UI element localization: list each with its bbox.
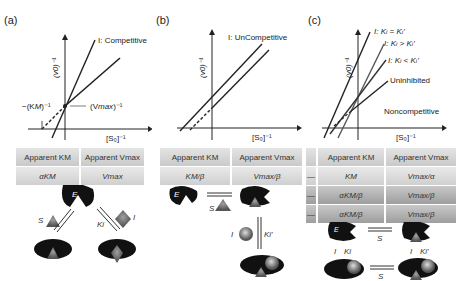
cell-km: KM: [318, 167, 384, 185]
reaction-scheme-noncompetitive: E S I Ki I Ki' S: [304, 222, 458, 281]
cell-vmax: Vmax/β: [386, 205, 456, 223]
lineweaver-burk-plot-uncompetitive: I: UnCompetitive (v0)⁻¹ [S₀]⁻¹: [152, 0, 304, 145]
svg-text:I: Ki = Ki': I: Ki = Ki': [374, 27, 405, 36]
svg-text:S: S: [378, 272, 384, 281]
reaction-scheme-uncompetitive: E S I Ki': [152, 185, 304, 281]
svg-text:I: Competitive: I: Competitive: [98, 36, 147, 45]
kinetics-table: Apparent KM Apparent Vmax αKM Vmax: [16, 148, 144, 185]
svg-text:E: E: [174, 190, 180, 199]
header-apparent-vmax: Apparent Vmax: [232, 148, 302, 166]
svg-text:I: Ki < Ki': I: Ki < Ki': [388, 56, 419, 65]
svg-text:S: S: [38, 216, 44, 225]
lineweaver-burk-plot-noncompetitive: I: Ki = Ki' I: Ki > Ki' I: Ki < Ki' Unin…: [304, 0, 458, 145]
enzyme-icon: [328, 222, 356, 241]
svg-text:I: Ki > Ki': I: Ki > Ki': [384, 39, 415, 48]
svg-text:S: S: [377, 234, 383, 243]
cell-km: αKM/β: [318, 205, 384, 223]
svg-text:Ki': Ki': [264, 230, 273, 239]
cell-km: αKM/β: [318, 186, 384, 204]
svg-text:Ki: Ki: [97, 220, 104, 229]
panel-uncompetitive: (b) I: UnCompetitive (v0)⁻¹ [S₀]⁻¹ Appar…: [152, 0, 304, 281]
svg-text:I: I: [231, 230, 234, 239]
panel-noncompetitive: (c) I: Ki = Ki' I: Ki > Ki' I: Ki < Ki' …: [304, 0, 458, 281]
svg-text:[S₀]⁻¹: [S₀]⁻¹: [396, 133, 416, 142]
svg-text:Uninhibited: Uninhibited: [390, 76, 430, 85]
cell-vmax: Vmax/β: [386, 186, 456, 204]
lineweaver-burk-plot-competitive: I: Competitive (v0)⁻¹ −(KM)⁻¹ (Vmax)⁻¹ […: [0, 0, 152, 145]
svg-text:I: UnCompetitive: I: UnCompetitive: [228, 33, 288, 42]
cell-vmax: Vmax: [81, 167, 144, 185]
svg-text:Ki': Ki': [420, 247, 429, 256]
svg-text:E: E: [72, 190, 78, 199]
svg-text:I: I: [133, 213, 136, 222]
svg-text:Ki: Ki: [344, 247, 351, 256]
reaction-scheme-competitive: E S I Ki: [0, 185, 152, 281]
inhibitor-icon: [239, 227, 253, 241]
svg-text:I: I: [410, 247, 413, 256]
kinetics-table: Apparent KM Apparent Vmax KM/β Vmax/β: [160, 148, 302, 185]
cell-vmax: Vmax/β: [232, 167, 302, 185]
svg-text:S: S: [209, 204, 215, 213]
svg-text:[S₀]⁻¹: [S₀]⁻¹: [106, 134, 126, 143]
svg-text:Noncompetitive: Noncompetitive: [384, 107, 440, 116]
header-apparent-km: Apparent KM: [318, 148, 384, 166]
cell-vmax: Vmax/α: [386, 167, 456, 185]
enzyme-icon: [62, 185, 94, 207]
cell-km: αKM: [16, 167, 79, 185]
svg-text:E: E: [334, 226, 339, 233]
svg-text:(v0)⁻¹: (v0)⁻¹: [51, 57, 60, 78]
substrate-icon: [215, 199, 231, 211]
svg-text:I: I: [334, 247, 337, 256]
header-apparent-km: Apparent KM: [160, 148, 230, 166]
header-apparent-km: Apparent KM: [16, 148, 79, 166]
header-apparent-vmax: Apparent Vmax: [81, 148, 144, 166]
svg-text:−(KM)⁻¹: −(KM)⁻¹: [22, 102, 51, 111]
header-apparent-vmax: Apparent Vmax: [386, 148, 456, 166]
svg-text:(Vmax)⁻¹: (Vmax)⁻¹: [90, 102, 123, 111]
kinetics-table: Apparent KM Apparent Vmax — KM Vmax/α — …: [306, 148, 456, 223]
svg-text:(v0)⁻¹: (v0)⁻¹: [344, 57, 353, 78]
svg-text:[S₀]⁻¹: [S₀]⁻¹: [252, 133, 272, 142]
cell-km: KM/β: [160, 167, 230, 185]
svg-text:(v0)⁻¹: (v0)⁻¹: [198, 57, 207, 78]
panel-competitive: (a) I: Competitive (v0)⁻¹ −(KM)⁻¹ (Vmax)…: [0, 0, 152, 281]
inhibitor-icon: [115, 210, 131, 228]
